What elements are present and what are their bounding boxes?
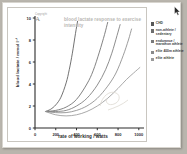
y-tick-label: 4 bbox=[23, 82, 31, 87]
data-series-line bbox=[45, 21, 77, 111]
y-tick-label: 0 bbox=[23, 126, 31, 131]
document-page: Copyright A blood lactate response to ex… bbox=[2, 2, 181, 148]
x-tick-label: 1000 bbox=[132, 132, 146, 137]
legend-swatch-icon bbox=[151, 22, 154, 25]
legend-item[interactable]: CHD bbox=[151, 22, 187, 26]
legend-item-label: elite 400m athlete bbox=[156, 50, 184, 54]
legend-swatch-icon bbox=[151, 40, 154, 43]
data-series-line bbox=[45, 22, 107, 111]
legend-swatch-icon bbox=[151, 51, 154, 54]
x-tick-label: 0 bbox=[28, 132, 42, 137]
chart-title: blood lactate response to exercise inten… bbox=[64, 17, 144, 29]
legend-item[interactable]: non-athlete / sedentary bbox=[151, 29, 187, 36]
x-tick-label: 200 bbox=[49, 132, 63, 137]
x-tick-label: 800 bbox=[111, 132, 125, 137]
data-series-line bbox=[45, 25, 120, 112]
legend-item-label: elite athlete bbox=[156, 57, 174, 61]
legend-item[interactable]: elite athlete bbox=[151, 57, 187, 61]
screenshot-root: Copyright A blood lactate response to ex… bbox=[0, 0, 187, 154]
legend-item-label: non-athlete / sedentary bbox=[156, 29, 187, 36]
legend-item-label: endurance / marathon athlete bbox=[156, 40, 187, 47]
data-series-group bbox=[45, 21, 139, 116]
y-tick-label: 10 bbox=[23, 16, 31, 21]
chart-frame: Copyright A blood lactate response to ex… bbox=[7, 7, 147, 142]
legend-item-label: CHD bbox=[156, 22, 163, 26]
y-tick-label: 6 bbox=[23, 60, 31, 65]
chart-legend: CHD non-athlete / sedentary endurance / … bbox=[151, 22, 187, 64]
y-axis-label: blood lactate / mmol l⁻¹ bbox=[15, 32, 20, 94]
legend-item[interactable]: endurance / marathon athlete bbox=[151, 40, 187, 47]
y-tick-label: 8 bbox=[23, 38, 31, 43]
legend-swatch-icon bbox=[151, 58, 154, 61]
y-tick-label: 2 bbox=[23, 104, 31, 109]
legend-item[interactable]: elite 400m athlete bbox=[151, 50, 187, 54]
x-tick-label: 600 bbox=[90, 132, 104, 137]
mouse-pointer-icon bbox=[174, 6, 181, 16]
legend-swatch-icon bbox=[151, 29, 154, 32]
data-series-line bbox=[45, 29, 131, 113]
x-tick-label: 400 bbox=[70, 132, 84, 137]
